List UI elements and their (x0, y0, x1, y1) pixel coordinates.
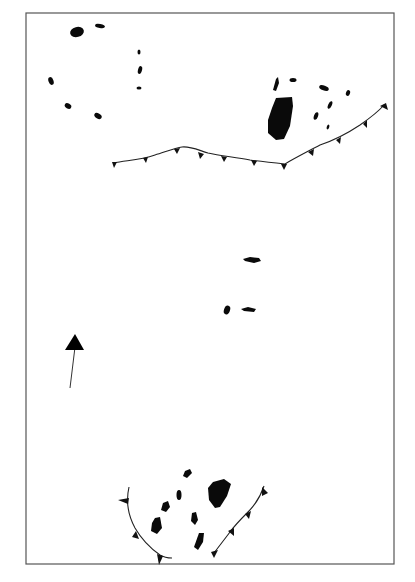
figure-caption (40, 574, 380, 582)
map-figure (0, 0, 415, 582)
lower-left-arc-front (118, 487, 172, 565)
island-group-middle (223, 257, 261, 315)
north-arrow-icon (65, 334, 84, 388)
island-group-lower (151, 469, 231, 550)
map-frame (26, 13, 394, 564)
island-group-upper-left (47, 23, 143, 120)
upper-thrust-front (112, 103, 388, 170)
island-group-upper-right (268, 77, 351, 140)
